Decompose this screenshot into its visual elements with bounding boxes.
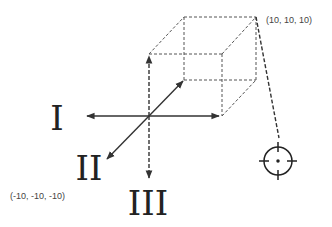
axis-label-ii: II — [76, 148, 103, 188]
axis-diagonal — [107, 81, 183, 159]
bounding-cube — [149, 17, 256, 116]
axis-label-iii: III — [128, 183, 168, 223]
coordinate-diagram: I II III (10, 10, 10) (-10, -10, -10) — [0, 0, 332, 227]
leader-line — [256, 17, 279, 138]
crosshair-target-icon — [259, 142, 297, 180]
max-corner-label: (10, 10, 10) — [266, 15, 312, 25]
min-corner-label: (-10, -10, -10) — [10, 191, 65, 201]
axis-label-i: I — [50, 98, 63, 138]
